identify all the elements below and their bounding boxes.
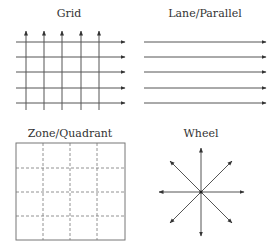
- grid-vertical-arrows: [26, 31, 99, 110]
- layout-patterns-diagram: Grid Lane/Parallel Zone/Quadrant Wheel: [0, 0, 276, 252]
- wheel-hub: [199, 190, 202, 193]
- diagram-graphics: [0, 0, 276, 252]
- wheel-diagram: [159, 148, 244, 236]
- zone-diagram: [16, 143, 125, 240]
- grid-horizontal-arrows: [16, 42, 125, 103]
- grid-diagram: [16, 31, 125, 110]
- lane-diagram: [144, 42, 266, 103]
